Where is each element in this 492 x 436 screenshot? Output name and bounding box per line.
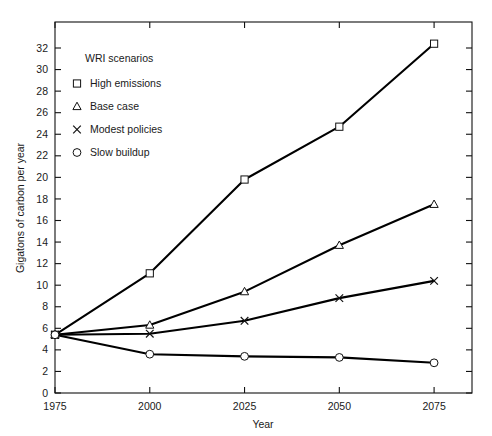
y-tick-label: 8 <box>42 300 48 312</box>
chart-figure: 19752000202520502075 0246810121416182022… <box>0 0 492 436</box>
y-tick-label: 4 <box>42 343 48 355</box>
legend-label: Modest policies <box>90 123 162 135</box>
y-tick-label: 22 <box>36 149 48 161</box>
y-tick-label: 30 <box>36 63 48 75</box>
legend-title: WRI scenarios <box>85 52 153 64</box>
y-tick-label: 6 <box>42 322 48 334</box>
x-tick-label: 1975 <box>43 400 67 412</box>
legend-label: Slow buildup <box>90 146 150 158</box>
y-tick-label: 28 <box>36 85 48 97</box>
legend-item-high-emissions: High emissions <box>73 77 161 89</box>
y-tick-label: 20 <box>36 171 48 183</box>
legend-marker-x <box>73 126 81 134</box>
data-point-marker <box>430 40 437 47</box>
legend-item-slow-buildup: Slow buildup <box>73 146 150 158</box>
data-point-marker <box>241 176 248 183</box>
data-point-marker <box>430 359 438 367</box>
series-line <box>55 204 434 334</box>
legend-label: Base case <box>90 100 139 112</box>
series-slow-buildup <box>51 331 438 367</box>
legend-item-base-case: Base case <box>73 100 139 112</box>
x-axis-title: Year <box>252 418 274 430</box>
legend-marker-square <box>73 80 80 87</box>
legend-marker-triangle <box>73 102 81 109</box>
data-point-marker <box>335 354 343 362</box>
y-tick-label: 0 <box>42 387 48 399</box>
line-chart: 19752000202520502075 0246810121416182022… <box>0 0 492 436</box>
data-point-marker <box>430 200 438 207</box>
y-tick-label: 18 <box>36 193 48 205</box>
legend-label: High emissions <box>90 77 161 89</box>
series-base-case <box>51 200 438 338</box>
data-point-marker <box>146 270 153 277</box>
y-tick-label: 32 <box>36 42 48 54</box>
data-point-marker <box>336 123 343 130</box>
y-tick-label: 10 <box>36 279 48 291</box>
y-tick-label: 14 <box>36 236 48 248</box>
y-tick-label: 24 <box>36 128 48 140</box>
x-tick-label: 2050 <box>328 400 352 412</box>
data-point-marker <box>241 352 249 360</box>
data-series-layer <box>51 40 438 367</box>
y-tick-label: 16 <box>36 214 48 226</box>
legend-item-modest-policies: Modest policies <box>73 123 162 135</box>
legend-marker-circle <box>73 149 81 157</box>
y-tick-label: 2 <box>42 365 48 377</box>
legend-entries: High emissionsBase caseModest policiesSl… <box>73 77 162 158</box>
x-axis-tick-labels: 19752000202520502075 <box>43 400 446 412</box>
y-tick-label: 26 <box>36 106 48 118</box>
data-point-marker <box>146 350 154 358</box>
data-point-marker <box>51 331 59 339</box>
chart-legend: WRI scenarios High emissionsBase caseMod… <box>73 52 162 158</box>
x-tick-label: 2075 <box>422 400 446 412</box>
x-tick-label: 2025 <box>233 400 257 412</box>
y-axis-title: Gigatons of carbon per year <box>14 142 26 273</box>
y-tick-label: 12 <box>36 257 48 269</box>
y-axis-tick-labels: 02468101214161820222426283032 <box>36 42 48 399</box>
x-tick-label: 2000 <box>138 400 162 412</box>
